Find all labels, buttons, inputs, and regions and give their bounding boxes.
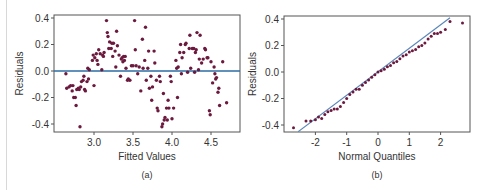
data-point xyxy=(352,90,355,93)
data-point xyxy=(339,105,342,108)
data-point xyxy=(395,60,398,63)
data-point xyxy=(367,79,370,82)
data-point xyxy=(292,126,295,129)
y-tick-label: 0.2 xyxy=(265,40,279,51)
data-point xyxy=(386,65,389,68)
data-point xyxy=(342,101,345,104)
x-axis-label: Normal Quantiles xyxy=(338,151,415,162)
y-tick-label: 0.4 xyxy=(265,14,279,25)
y-tick-label: 0.0 xyxy=(265,67,279,78)
data-point xyxy=(330,109,333,112)
data-point xyxy=(355,88,358,91)
data-point xyxy=(323,113,326,116)
data-point xyxy=(427,37,430,40)
data-point xyxy=(345,97,348,100)
data-point xyxy=(309,120,312,123)
data-point xyxy=(402,55,405,58)
data-point xyxy=(377,71,380,74)
data-point xyxy=(439,31,442,34)
data-point xyxy=(417,45,420,48)
data-point xyxy=(408,51,411,54)
x-tick-label: -1 xyxy=(342,137,351,148)
data-point xyxy=(364,81,367,84)
data-point xyxy=(326,110,329,113)
plot-frame xyxy=(284,16,470,132)
data-point xyxy=(433,32,436,35)
data-point xyxy=(449,20,452,23)
data-point xyxy=(411,49,414,52)
data-point xyxy=(333,108,336,111)
y-tick-label: -0.2 xyxy=(262,93,280,104)
x-tick-label: 1 xyxy=(407,137,413,148)
data-point xyxy=(383,68,386,71)
data-point xyxy=(436,32,439,35)
data-point xyxy=(370,76,373,79)
normal-qq-chart: 0.40.20.0-0.2-0.4-2-1012ResidualsNormal … xyxy=(0,0,488,190)
data-point xyxy=(420,44,423,47)
data-point xyxy=(392,61,395,64)
data-point xyxy=(444,28,447,31)
x-tick-label: 2 xyxy=(438,137,444,148)
data-point xyxy=(348,93,351,96)
data-point xyxy=(423,41,426,44)
data-point xyxy=(361,84,364,87)
data-point xyxy=(317,116,320,119)
data-point xyxy=(373,73,376,76)
y-axis-label: Residuals xyxy=(247,52,258,96)
data-point xyxy=(430,35,433,38)
x-tick-label: 0 xyxy=(375,137,381,148)
x-tick-label: -2 xyxy=(311,137,320,148)
data-point xyxy=(461,22,464,25)
data-point xyxy=(320,117,323,120)
y-tick-label: -0.4 xyxy=(262,120,280,131)
data-point xyxy=(380,69,383,72)
data-point xyxy=(405,53,408,56)
data-point xyxy=(389,64,392,67)
data-point xyxy=(314,118,317,121)
panel-label: (b) xyxy=(372,170,383,180)
data-point xyxy=(305,120,308,123)
data-point xyxy=(414,48,417,51)
data-point xyxy=(336,108,339,111)
data-point xyxy=(398,57,401,60)
data-point xyxy=(358,88,361,91)
